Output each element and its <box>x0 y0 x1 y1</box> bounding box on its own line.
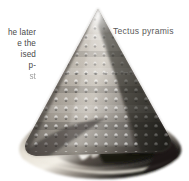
figure-page: he later e the ised p- st Tectus pyramis <box>0 0 189 181</box>
body-text-line: st <box>0 71 36 82</box>
body-text-column: he later e the ised p- st <box>0 27 36 82</box>
body-text-line: e the <box>0 38 36 49</box>
body-text-line: ised <box>0 49 36 60</box>
body-text-line: he later <box>0 27 36 38</box>
species-caption: Tectus pyramis <box>113 26 174 36</box>
body-text-line: p- <box>0 60 36 71</box>
